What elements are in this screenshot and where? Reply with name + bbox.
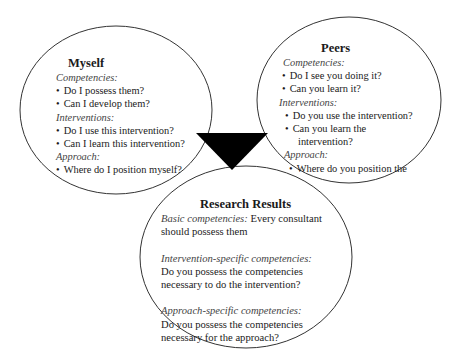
myself-bullet: Do I use this intervention? (56, 124, 185, 137)
myself-interventions-label: Interventions: (56, 111, 185, 124)
peers-interventions-label: Interventions: (279, 96, 413, 109)
peers-bullet: Do you use the intervention? (279, 109, 413, 122)
down-arrow-triangle-icon (196, 133, 268, 170)
approach-competencies-text-2: necessary for the approach? (161, 331, 322, 344)
basic-competencies-text-2: should possess them (161, 225, 322, 238)
intervention-competencies-text-1: Do you possess the competencies (161, 265, 322, 278)
myself-bullet: Do I possess them? (56, 84, 185, 97)
research-results-text: Research Results Basic competencies: Eve… (161, 197, 322, 344)
basic-competencies-text: Every consultant (248, 213, 322, 224)
peers-text: Peers Competencies: Do I see you doing i… (279, 41, 413, 175)
peers-bullet-continuation: intervention? (279, 135, 413, 148)
peers-title: Peers (279, 41, 413, 56)
myself-bullet: Can I develop them? (56, 97, 185, 110)
intervention-competencies-label: Intervention-specific competencies: (161, 252, 322, 265)
myself-competencies-label: Competencies: (56, 71, 185, 84)
basic-competencies-label: Basic competencies: (161, 213, 248, 224)
peers-competencies-label: Competencies: (279, 56, 413, 69)
peers-bullet: Can you learn the (279, 122, 413, 135)
peers-approach-label: Approach: (279, 148, 413, 161)
myself-title: Myself (56, 56, 185, 71)
research-results-title: Research Results (161, 197, 322, 212)
myself-approach-label: Approach: (56, 150, 185, 163)
peers-bullet: Can you learn it? (279, 82, 413, 95)
myself-bullet: Where do I position myself? (56, 163, 185, 176)
peers-bullet: Do I see you doing it? (279, 69, 413, 82)
myself-bullet: Can I learn this intervention? (56, 137, 185, 150)
approach-competencies-text-1: Do you possess the competencies (161, 318, 322, 331)
approach-competencies-label: Approach-specific competencies: (161, 304, 322, 317)
intervention-competencies-text-2: necessary to do the intervention? (161, 278, 322, 291)
peers-bullet: Where do you position the (279, 162, 413, 175)
myself-text: Myself Competencies: Do I possess them? … (56, 56, 185, 177)
